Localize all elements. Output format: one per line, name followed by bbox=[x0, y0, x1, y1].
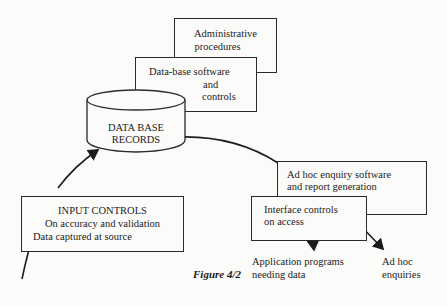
input-title: INPUT CONTROLS bbox=[22, 205, 183, 218]
dbsoftware-line2: and bbox=[203, 79, 218, 92]
records-to-adhoc-connector bbox=[179, 137, 278, 163]
admin-line1: Administrative bbox=[175, 28, 276, 41]
interface-line2: on access bbox=[264, 216, 304, 229]
records-line2: RECORDS bbox=[87, 134, 185, 147]
dbsoftware-line3: controls bbox=[202, 91, 236, 104]
interface-line1: Interface controls bbox=[264, 204, 338, 217]
input-line3: Data captured at source bbox=[33, 231, 132, 244]
input-controls-box: INPUT CONTROLS On accuracy and validatio… bbox=[21, 196, 184, 252]
adhoc-output-line2: enquiries bbox=[382, 269, 421, 282]
records-line1: DATA BASE bbox=[87, 122, 185, 135]
figure-caption: Figure 4/2 bbox=[193, 268, 241, 280]
input-line2: On accuracy and validation bbox=[22, 218, 183, 231]
interface-controls-box: Interface controls on access bbox=[251, 196, 367, 241]
adhoc-output-line1: Ad hoc bbox=[382, 256, 413, 269]
admin-line2: procedures bbox=[167, 41, 268, 54]
dbsoftware-line1: Data-base software bbox=[149, 66, 230, 79]
apps-output-line2: needing data bbox=[252, 269, 305, 282]
apps-output-line1: Application programs bbox=[252, 256, 344, 269]
adhocsw-line2: and report generation bbox=[287, 181, 377, 194]
adhocsw-line1: Ad hoc enquiry software bbox=[287, 169, 391, 182]
